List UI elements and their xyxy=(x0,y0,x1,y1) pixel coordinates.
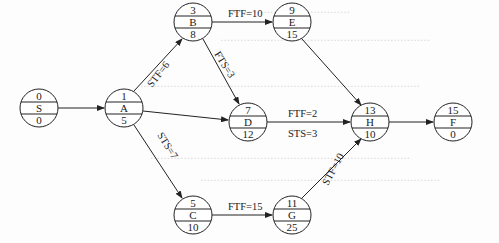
node-early-start: 15 xyxy=(448,104,460,116)
edge-label-c-g: FTF=15 xyxy=(228,201,263,212)
node-duration: 8 xyxy=(190,28,196,40)
node-activity-name: D xyxy=(244,116,252,128)
edge-label-a-c: STS=7 xyxy=(155,130,180,161)
node-activity-name: E xyxy=(289,16,296,28)
node-d: 7D12 xyxy=(229,103,267,141)
edge-label-d-h-top: FTF=2 xyxy=(288,108,317,119)
edge-e-h xyxy=(302,39,361,105)
node-early-start: 0 xyxy=(36,90,42,102)
edge-label-d-h-bottom: STS=3 xyxy=(288,128,317,139)
node-duration: 25 xyxy=(287,221,299,233)
edge-label-b-d: FTS=3 xyxy=(212,49,237,80)
node-a: 1A5 xyxy=(105,89,143,127)
node-early-start: 5 xyxy=(190,197,196,209)
edge-label-g-h: STF=10 xyxy=(320,151,346,187)
node-activity-name: H xyxy=(366,116,374,128)
node-f: 15F0 xyxy=(434,103,472,141)
node-duration: 10 xyxy=(365,128,377,140)
node-duration: 15 xyxy=(287,28,299,40)
edge-label-b-e: FTF=10 xyxy=(228,8,263,19)
node-activity-name: C xyxy=(189,209,196,221)
node-activity-name: B xyxy=(189,16,196,28)
node-b: 3B8 xyxy=(174,3,212,41)
node-s: 0S0 xyxy=(20,89,58,127)
edge-a-d xyxy=(143,111,228,120)
node-duration: 5 xyxy=(121,114,127,126)
node-activity-name: A xyxy=(120,102,128,114)
node-early-start: 9 xyxy=(289,4,295,16)
node-activity-name: F xyxy=(450,116,456,128)
network-diagram: ……………………………… ……………………………………………………… ……………… xyxy=(0,0,499,243)
diagram-svg: STF=6 STS=7 FTF=10 FTS=3 FTF=2 STS=3 FTF… xyxy=(0,0,499,243)
node-duration: 12 xyxy=(243,128,254,140)
node-e: 9E15 xyxy=(273,3,311,41)
node-h: 13H10 xyxy=(351,103,389,141)
node-early-start: 11 xyxy=(287,197,298,209)
node-early-start: 7 xyxy=(245,104,251,116)
node-duration: 10 xyxy=(188,221,200,233)
node-activity-name: G xyxy=(288,209,296,221)
node-early-start: 13 xyxy=(365,104,377,116)
node-g: 11G25 xyxy=(273,196,311,234)
node-early-start: 1 xyxy=(121,90,127,102)
node-duration: 0 xyxy=(36,114,42,126)
node-c: 5C10 xyxy=(174,196,212,234)
node-activity-name: S xyxy=(36,102,42,114)
node-duration: 0 xyxy=(450,128,456,140)
node-early-start: 3 xyxy=(190,4,196,16)
